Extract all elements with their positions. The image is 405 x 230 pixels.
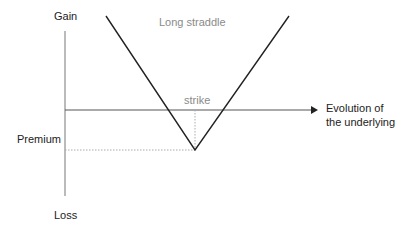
payoff-line: [106, 16, 289, 150]
loss-label: Loss: [54, 209, 78, 221]
strike-label: strike: [184, 94, 210, 106]
x-axis-label-line2: the underlying: [326, 116, 395, 128]
premium-label: Premium: [17, 133, 61, 145]
long-straddle-diagram: Gain Long straddle strike Evolution of t…: [0, 0, 405, 230]
gain-label: Gain: [54, 10, 77, 22]
diagram-title: Long straddle: [159, 16, 226, 28]
x-axis-label-line1: Evolution of: [326, 102, 384, 114]
x-axis-arrowhead-icon: [311, 106, 318, 114]
